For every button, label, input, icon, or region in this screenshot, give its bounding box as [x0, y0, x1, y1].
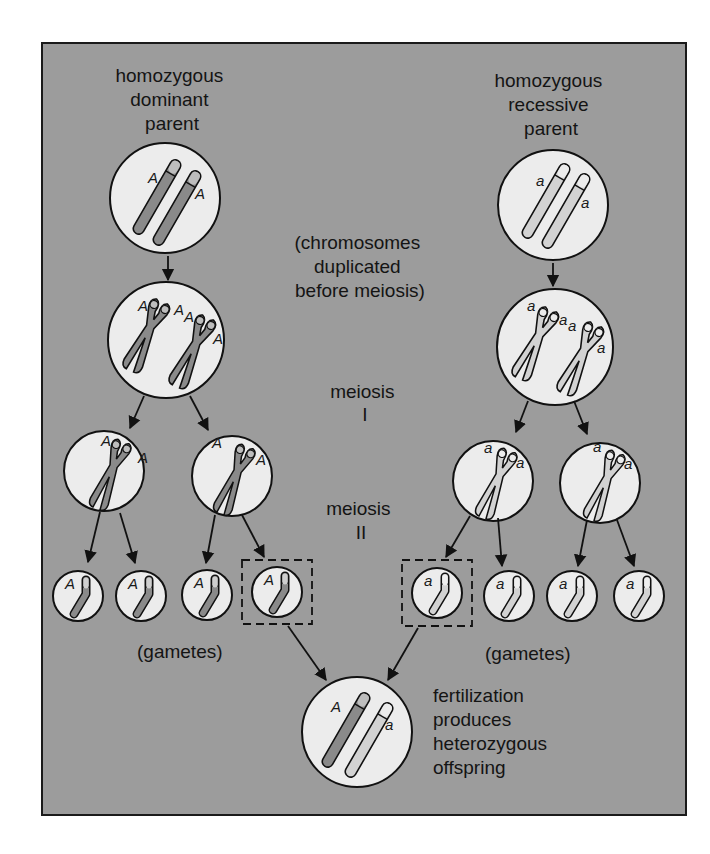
allele-label: a [568, 317, 576, 334]
allele-label: a [484, 439, 492, 456]
allele-label: A [193, 574, 204, 591]
meiosis-fertilization-diagram: homozygous dominant parent homozygous re… [0, 0, 710, 854]
offspring-cell: A a [302, 677, 412, 787]
right-parent-cell: a a [498, 150, 608, 260]
right-meiosis1-cell-1: a a [453, 439, 533, 521]
allele-label: A [100, 432, 111, 449]
left-meiosis1-cell-2: A A [192, 434, 272, 517]
allele-label: a [597, 339, 605, 356]
allele-label: a [581, 194, 589, 211]
allele-label: a [527, 297, 535, 314]
allele-label: a [593, 438, 601, 455]
allele-label: A [64, 575, 75, 592]
allele-label: A [183, 308, 194, 325]
gamete-left-4-selected: A [252, 567, 302, 617]
allele-label: A [211, 434, 222, 451]
gametes-right-label: (gametes) [485, 643, 571, 664]
allele-label: a [516, 454, 524, 471]
allele-label: a [536, 172, 544, 189]
allele-label: a [559, 575, 567, 592]
allele-label: A [137, 297, 148, 314]
left-parent-cell: A A [110, 143, 220, 253]
allele-label: A [263, 571, 274, 588]
allele-label: a [559, 311, 567, 328]
allele-label: A [127, 575, 138, 592]
allele-label: a [496, 575, 504, 592]
allele-label: A [212, 330, 223, 347]
gamete-right-2: a [484, 571, 534, 621]
gametes-left-label: (gametes) [137, 641, 223, 662]
gamete-left-3: A [182, 570, 232, 620]
gamete-left-1: A [53, 571, 103, 621]
allele-label: A [173, 301, 184, 318]
allele-label: a [385, 716, 393, 733]
left-duplicated-cell: A A A A [108, 282, 224, 398]
allele-label: A [194, 185, 205, 202]
allele-label: A [137, 449, 148, 466]
gamete-right-3: a [547, 571, 597, 621]
allele-label: A [255, 451, 266, 468]
allele-label: A [330, 698, 341, 715]
allele-label: a [424, 572, 432, 589]
allele-label: a [624, 455, 632, 472]
gamete-right-1-selected: a [412, 568, 462, 618]
allele-label: A [147, 169, 158, 186]
right-duplicated-cell: a a a a [497, 289, 613, 405]
gamete-right-4: a [614, 571, 664, 621]
duplication-note: (chromosomes duplicated before meiosis) [295, 232, 426, 301]
gamete-left-2: A [116, 571, 166, 621]
allele-label: a [626, 575, 634, 592]
